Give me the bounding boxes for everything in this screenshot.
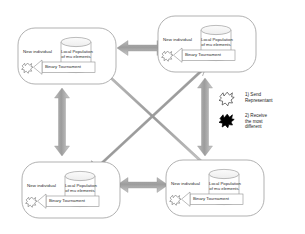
- legend-label-receive-most-different: 2) Receive the most different: [245, 113, 267, 130]
- new-individual-label: New individual: [27, 183, 56, 188]
- population-label-line2: of mu elements: [61, 54, 91, 59]
- population-label-line2: of mu elements: [65, 188, 95, 193]
- population-label-line2: of mu elements: [209, 186, 239, 191]
- new-individual-label: New individual: [23, 49, 52, 54]
- binary-tournament-label: Binary Tournament: [185, 52, 221, 57]
- binary-tournament-label: Binary Tournament: [45, 64, 81, 69]
- diagram-canvas: New individual Local Population of mu el…: [0, 0, 305, 234]
- legend-label-send-representant: 1) Send Representant: [245, 92, 273, 103]
- new-individual-label: New individual: [163, 37, 192, 42]
- binary-tournament-label: Binary Tournament: [49, 198, 85, 203]
- legend-icon-receive-most-different: [219, 114, 234, 128]
- binary-tournament-label: Binary Tournament: [193, 196, 229, 201]
- arrow-right-vertical: [198, 78, 213, 156]
- new-individual-label: New individual: [171, 181, 200, 186]
- legend-icon-send-representant: [219, 92, 234, 106]
- arrow-bottom-horizontal: [117, 178, 168, 193]
- arrow-left-vertical: [55, 88, 70, 156]
- population-label-line2: of mu elements: [201, 42, 231, 47]
